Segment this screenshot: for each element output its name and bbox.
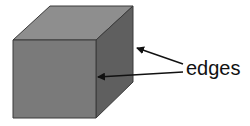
arrow-to-right-edge: [137, 48, 183, 64]
edges-label: edges: [186, 56, 241, 80]
cube-front-face: [13, 40, 96, 118]
cube-edges-diagram: edges: [0, 0, 250, 126]
